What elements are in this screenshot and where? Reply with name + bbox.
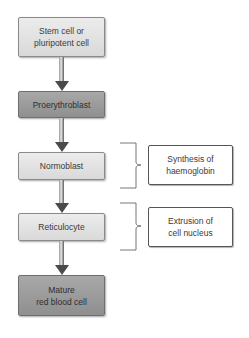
annotation-synthesis-haemoglobin: Synthesis of haemoglobin <box>148 145 233 185</box>
annotation-2-line1: Extrusion of <box>168 215 213 227</box>
annotation-extrusion-nucleus: Extrusion of cell nucleus <box>148 207 233 247</box>
annotation-2-line2: cell nucleus <box>168 227 213 239</box>
annotation-1-line2: haemoglobin <box>166 165 215 177</box>
annotation-1-line1: Synthesis of <box>166 153 215 165</box>
